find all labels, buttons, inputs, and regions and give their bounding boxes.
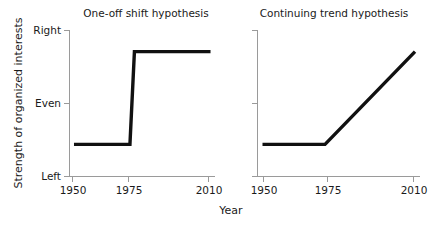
x-ticklabel-2010-left: 2010 bbox=[196, 184, 223, 196]
x-ticklabel-1950-right: 1950 bbox=[251, 184, 278, 196]
y-ticklabel-right: Right bbox=[33, 24, 61, 36]
x-ticklabel-2010-right: 2010 bbox=[401, 184, 428, 196]
panel-title-right: Continuing trend hypothesis bbox=[260, 7, 409, 19]
y-ticklabel-even: Even bbox=[35, 97, 61, 109]
y-ticklabel-left: Left bbox=[41, 170, 61, 182]
series-line-continuing-trend bbox=[263, 52, 416, 145]
x-ticklabel-1975-right: 1975 bbox=[315, 184, 342, 196]
series-line-one-off-shift bbox=[74, 52, 211, 145]
panel-continuing-trend: Continuing trend hypothesis 1950 1975 20… bbox=[251, 7, 428, 196]
two-panel-line-chart: Strength of organized interests Year One… bbox=[0, 0, 435, 229]
x-axis-title: Year bbox=[218, 204, 243, 217]
x-ticklabel-1975-left: 1975 bbox=[116, 184, 143, 196]
y-axis-title: Strength of organized interests bbox=[12, 17, 25, 188]
panel-one-off-shift: One-off shift hypothesis Right Even Left… bbox=[33, 7, 222, 196]
x-ticklabel-1950-left: 1950 bbox=[60, 184, 87, 196]
panel-title-left: One-off shift hypothesis bbox=[83, 7, 208, 19]
